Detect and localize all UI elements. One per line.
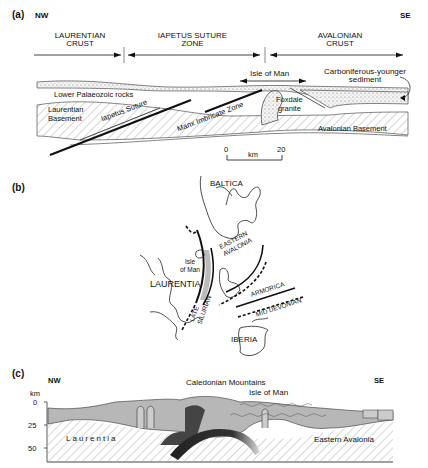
panel-b-tag: (b) [12, 183, 25, 193]
label-line: of Man [180, 266, 200, 274]
panel-c-title: Caledonian Mountains [186, 379, 266, 387]
label-line: Laurentian [48, 105, 83, 114]
label-laurentia-c: Laurentia [66, 435, 117, 443]
label-eastern-avalonia-c: Eastern Avalonia [314, 436, 374, 444]
label-carboniferous: Carboniferous-younger sediment [320, 68, 410, 84]
label-line: sediment [320, 76, 410, 84]
label-laurentian-basement: Laurentian Basement [48, 105, 83, 124]
label-line: Foxdale [276, 95, 303, 104]
panel-a-nw: NW [35, 12, 48, 20]
label-baltica: BALTICA [210, 180, 243, 188]
panel-c-isle-of-man: Isle of Man [249, 389, 288, 397]
label-lower-palaeozoic: Lower Palaeozoic rocks [54, 91, 133, 99]
scale-start: 0 [224, 146, 228, 154]
label-foxdale-granite: Foxdale granite [276, 95, 303, 114]
label-line: Basement [48, 114, 83, 123]
axis-tick-50: 50 [28, 445, 36, 453]
zone-label-line: CRUST [40, 40, 120, 48]
zone-avalonian-crust: AVALONIAN CRUST [300, 32, 380, 48]
scale-end: 20 [277, 146, 285, 154]
zone-laurentian-crust: LAURENTIAN CRUST [40, 32, 120, 48]
panel-a-se: SE [400, 12, 411, 20]
panel-a-tag: (a) [12, 10, 24, 20]
zone-label-line: CRUST [300, 40, 380, 48]
label-line: granite [276, 104, 303, 113]
panel-a-diagram [34, 47, 410, 160]
label-isle-of-man-b: Isle of Man [180, 258, 200, 274]
label-laurentia-b: LAURENTIA [150, 280, 201, 289]
panel-c-section [44, 396, 393, 462]
axis-unit: km [30, 390, 40, 398]
label-avalonian-basement: Avalonian Basement [318, 125, 387, 133]
label-isle-of-man: Isle of Man [250, 70, 289, 78]
axis-tick-25: 25 [28, 422, 36, 430]
panel-c-tag: (c) [12, 369, 24, 379]
panel-c-se: SE [374, 377, 384, 385]
scale-unit: km [248, 151, 258, 159]
panel-c-nw: NW [48, 377, 61, 385]
axis-tick-0: 0 [33, 399, 37, 407]
label-line: Isle [180, 258, 200, 266]
zone-iapetus-suture: IAPETUS SUTURE ZONE [145, 32, 240, 48]
zone-label-line: ZONE [145, 40, 240, 48]
label-iberia: IBERIA [231, 336, 257, 344]
